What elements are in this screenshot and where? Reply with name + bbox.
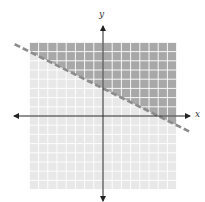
coordinate-plane: [0, 0, 205, 202]
x-axis-label: x: [195, 109, 200, 119]
y-axis-label: y: [99, 9, 104, 19]
